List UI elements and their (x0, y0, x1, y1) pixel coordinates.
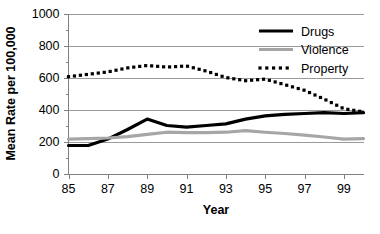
data-dot (262, 78, 265, 81)
y-tick-label-800: 800 (39, 39, 60, 53)
legend-swatch-dot (265, 66, 268, 69)
line-chart: 02004006008001000 8587899193959799 Drugs… (0, 0, 380, 234)
data-dot (162, 65, 165, 68)
data-dot (150, 64, 153, 67)
legend-swatch-dot (279, 66, 282, 69)
data-dot (324, 98, 327, 101)
data-dot (109, 70, 112, 73)
x-tick-label-85: 85 (62, 182, 76, 196)
data-dot (67, 75, 70, 78)
x-tick-labels: 8587899193959799 (62, 182, 351, 196)
data-dot (132, 66, 135, 69)
data-dot (256, 78, 259, 81)
data-dot (114, 69, 117, 72)
data-dot (144, 64, 147, 67)
data-dot (346, 108, 349, 111)
data-dot (203, 69, 206, 72)
data-dot (352, 109, 355, 112)
legend-item-property: Property (258, 62, 349, 76)
axis-tickmarks (64, 15, 345, 179)
data-dot (341, 106, 344, 109)
data-dot (97, 71, 100, 74)
data-dot (215, 73, 218, 76)
data-dot (302, 89, 305, 92)
x-tick-label-95: 95 (258, 182, 272, 196)
data-dot (91, 72, 94, 75)
data-dot (285, 84, 288, 87)
data-dot (198, 68, 201, 71)
data-dot (238, 78, 241, 81)
legend-item-violence: Violence (259, 43, 349, 57)
data-dot (192, 66, 195, 69)
data-dot (180, 65, 183, 68)
chart-legend: DrugsViolenceProperty (258, 25, 349, 76)
data-dot (174, 65, 177, 68)
y-tick-label-1000: 1000 (32, 7, 60, 21)
x-tick-label-87: 87 (101, 182, 115, 196)
series-violence (69, 131, 364, 139)
data-dot (85, 73, 88, 76)
y-axis-title: Mean Rate per 100,000 (4, 26, 18, 160)
data-dot (319, 96, 322, 99)
series-drugs (69, 113, 364, 146)
data-dot (156, 65, 159, 68)
data-dot (274, 80, 277, 83)
y-tick-label-600: 600 (39, 71, 60, 85)
data-dot (335, 104, 338, 107)
data-dot (120, 67, 123, 70)
data-dot (250, 79, 253, 82)
data-dot (330, 101, 333, 104)
data-series (67, 64, 364, 145)
data-dot (297, 87, 300, 90)
x-tick-label-91: 91 (180, 182, 194, 196)
y-tick-label-400: 400 (39, 103, 60, 117)
legend-swatch-dot (286, 66, 289, 69)
x-tick-label-93: 93 (219, 182, 233, 196)
x-axis-title: Year (203, 203, 230, 217)
chart-container: 02004006008001000 8587899193959799 Drugs… (0, 0, 380, 234)
legend-item-drugs: Drugs (259, 25, 334, 39)
data-dot (186, 65, 189, 68)
data-dot (232, 77, 235, 80)
data-dot (220, 75, 223, 78)
data-dot (244, 79, 247, 82)
data-dot (313, 93, 316, 96)
legend-label-violence: Violence (301, 43, 349, 57)
data-dot (138, 65, 141, 68)
data-dot (291, 85, 294, 88)
data-dot (308, 91, 311, 94)
data-dot (226, 76, 229, 79)
data-dot (79, 74, 82, 77)
x-tick-label-89: 89 (140, 182, 154, 196)
data-dot (73, 74, 76, 77)
y-tick-label-200: 200 (39, 135, 60, 149)
data-dot (209, 71, 212, 74)
y-tick-label-0: 0 (53, 167, 60, 181)
data-dot (126, 66, 129, 69)
legend-swatch-dot (272, 66, 275, 69)
data-dot (358, 110, 361, 113)
legend-label-drugs: Drugs (301, 25, 334, 39)
legend-swatch-dot (258, 66, 261, 69)
data-dot (279, 82, 282, 85)
y-tick-labels: 02004006008001000 (32, 7, 60, 181)
x-tick-label-99: 99 (337, 182, 351, 196)
data-dot (103, 71, 106, 74)
x-tick-label-97: 97 (298, 182, 312, 196)
data-dot (168, 65, 171, 68)
legend-label-property: Property (301, 62, 349, 76)
data-dot (268, 79, 271, 82)
